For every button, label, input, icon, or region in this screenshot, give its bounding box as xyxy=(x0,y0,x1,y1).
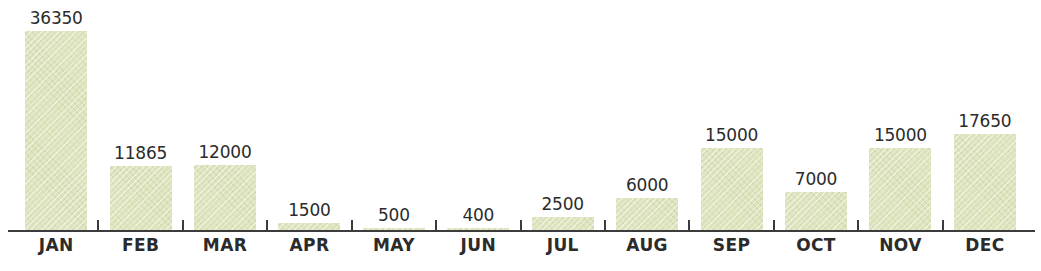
x-axis-labels: JANFEBMARAPRMAYJUNJULAUGSEPOCTNOVDEC xyxy=(14,236,1027,266)
bar-group: 15000 xyxy=(858,0,942,231)
bar-group: 36350 xyxy=(14,0,98,231)
bar-value-label: 7000 xyxy=(795,171,837,188)
x-axis-tick-label: OCT xyxy=(774,236,858,255)
x-label-slot: JUL xyxy=(521,236,605,266)
bar-group: 400 xyxy=(436,0,520,231)
bar-series: 3635011865120001500500400250060001500070… xyxy=(14,0,1027,231)
x-label-slot: APR xyxy=(267,236,351,266)
axis-tick xyxy=(688,220,690,230)
axis-tick xyxy=(942,220,944,230)
bar-value-label: 17650 xyxy=(958,113,1011,130)
x-axis-baseline xyxy=(8,230,1035,232)
bar-value-label: 15000 xyxy=(874,127,927,144)
bar-value-label: 11865 xyxy=(114,145,167,162)
x-label-slot: JUN xyxy=(436,236,520,266)
bar-group: 11865 xyxy=(98,0,182,231)
x-label-slot: NOV xyxy=(858,236,942,266)
bar-value-label: 1500 xyxy=(288,202,330,219)
x-label-slot: OCT xyxy=(774,236,858,266)
x-axis-tick-label: APR xyxy=(267,236,351,255)
axis-tick xyxy=(182,220,184,230)
bar xyxy=(869,148,931,231)
bar-group: 2500 xyxy=(521,0,605,231)
axis-tick xyxy=(520,220,522,230)
x-axis-tick-label: JUL xyxy=(521,236,605,255)
bar-value-label: 2500 xyxy=(542,196,584,213)
x-axis-tick-label: DEC xyxy=(943,236,1027,255)
bar-group: 15000 xyxy=(689,0,773,231)
x-label-slot: MAR xyxy=(183,236,267,266)
bar-chart: 3635011865120001500500400250060001500070… xyxy=(0,0,1041,271)
bar-group: 12000 xyxy=(183,0,267,231)
x-axis-tick-label: FEB xyxy=(98,236,182,255)
axis-tick xyxy=(97,220,99,230)
bar xyxy=(25,31,87,231)
bar-value-label: 6000 xyxy=(626,177,668,194)
x-axis-tick-label: NOV xyxy=(858,236,942,255)
x-axis-tick-label: JUN xyxy=(436,236,520,255)
axis-tick xyxy=(604,220,606,230)
x-axis-tick-label: MAY xyxy=(352,236,436,255)
x-axis-ticks xyxy=(14,220,1027,230)
bar-group: 6000 xyxy=(605,0,689,231)
x-axis-tick-label: MAR xyxy=(183,236,267,255)
bar-value-label: 15000 xyxy=(705,127,758,144)
x-label-slot: FEB xyxy=(98,236,182,266)
bar-value-label: 36350 xyxy=(30,10,83,27)
x-axis-tick-label: JAN xyxy=(14,236,98,255)
axis-tick xyxy=(266,220,268,230)
bar-group: 500 xyxy=(352,0,436,231)
bar xyxy=(954,134,1016,231)
x-label-slot: DEC xyxy=(943,236,1027,266)
x-axis-tick-label: AUG xyxy=(605,236,689,255)
bar-group: 1500 xyxy=(267,0,351,231)
plot-area: 3635011865120001500500400250060001500070… xyxy=(0,0,1041,231)
axis-tick xyxy=(435,220,437,230)
bar-group: 7000 xyxy=(774,0,858,231)
x-axis-tick-label: SEP xyxy=(689,236,773,255)
axis-tick xyxy=(773,220,775,230)
x-label-slot: MAY xyxy=(352,236,436,266)
bar-value-label: 12000 xyxy=(199,144,252,161)
x-label-slot: AUG xyxy=(605,236,689,266)
axis-tick xyxy=(351,220,353,230)
bar-group: 17650 xyxy=(943,0,1027,231)
x-label-slot: JAN xyxy=(14,236,98,266)
x-label-slot: SEP xyxy=(689,236,773,266)
axis-tick xyxy=(857,220,859,230)
bar xyxy=(701,148,763,231)
